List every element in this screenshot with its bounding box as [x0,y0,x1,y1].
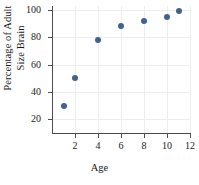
data-point [141,18,147,24]
y-axis-title-line-2: Size Brain [15,0,28,108]
x-axis-tick [144,133,145,138]
x-axis-tick-label: 8 [132,140,156,151]
data-point [118,23,124,29]
y-axis-tick-label: 60 [31,58,41,71]
y-axis-tick: 100 [48,10,53,11]
x-axis-tick [190,133,191,138]
gridline-vertical [190,6,191,133]
y-axis-tick-label: 80 [31,30,41,43]
y-axis-tick: 20 [48,119,53,120]
x-axis-tick [167,133,168,138]
data-point [72,75,78,81]
y-axis-line [52,6,53,134]
scatter-chart-figure: Percentage of Adult Size Brain 204060801… [0,0,199,185]
data-point [176,8,182,14]
x-axis-title: Age [0,162,199,173]
y-axis-tick-label: 100 [26,3,41,16]
y-axis-tick-label: 40 [31,85,41,98]
x-axis-tick-label: 6 [109,140,133,151]
y-axis-tick-label: 20 [31,112,41,125]
x-axis-tick [75,133,76,138]
x-axis-tick-label: 12 [178,140,199,151]
gridline-vertical [98,6,99,133]
x-axis-tick [121,133,122,138]
data-point [164,14,170,20]
x-axis-tick [98,133,99,138]
y-axis-tick: 60 [48,65,53,66]
gridline-vertical [75,6,76,133]
plot-area: 20406080100 24681012 [52,6,190,134]
y-axis-tick: 80 [48,37,53,38]
gridline-vertical [144,6,145,133]
x-axis-tick-label: 2 [63,140,87,151]
x-axis-tick-label: 4 [86,140,110,151]
y-axis-title-line-1: Percentage of Adult [2,5,13,90]
x-axis-tick-label: 10 [155,140,179,151]
data-point [61,103,67,109]
data-point [95,37,101,43]
y-axis-tick: 40 [48,92,53,93]
gridline-vertical [167,6,168,133]
